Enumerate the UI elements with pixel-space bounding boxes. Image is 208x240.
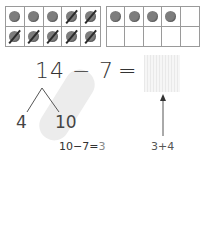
step-note: 10−7=3 xyxy=(59,140,105,153)
part-left: 4 xyxy=(16,112,27,132)
step-prefix: 10−7= xyxy=(59,140,98,153)
step-result: 3 xyxy=(98,140,105,153)
sum-note: 3+4 xyxy=(151,140,174,153)
arrow-up-icon xyxy=(160,94,166,136)
part-right: 10 xyxy=(55,112,77,132)
